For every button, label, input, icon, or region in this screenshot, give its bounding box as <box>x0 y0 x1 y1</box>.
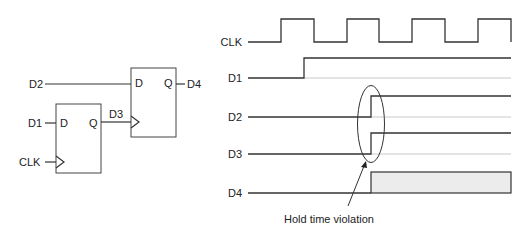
schematic: D Q D Q D2 D1 CLK D3 D4 <box>19 68 201 173</box>
net-label-d3: D3 <box>109 108 123 120</box>
diagram-canvas: D Q D Q D2 D1 CLK D3 D4 CLK D1 D2 D3 D4 <box>0 0 531 237</box>
waveform-d4-undefined-region <box>371 172 511 193</box>
signal-label-d4: D4 <box>228 187 242 199</box>
waveform-d1 <box>248 58 511 78</box>
ff1-d-pin: D <box>60 117 68 129</box>
ff2-q-pin: Q <box>164 77 173 89</box>
signal-label-d3: D3 <box>228 148 242 160</box>
annotation-arrow <box>348 166 364 206</box>
arrowhead-icon <box>361 161 367 168</box>
input-label-clk: CLK <box>19 156 41 168</box>
waveform-d3 <box>248 133 511 154</box>
annotation-hold-time-violation: Hold time violation <box>284 213 374 225</box>
ff2-d-pin: D <box>135 77 143 89</box>
waveform-clk <box>248 19 511 42</box>
ff1-q-pin: Q <box>89 117 98 129</box>
waveform-d2 <box>248 96 511 117</box>
signal-label-d1: D1 <box>228 72 242 84</box>
timing-diagram: CLK D1 D2 D3 D4 Hold time violation <box>221 19 511 225</box>
input-label-d1: D1 <box>28 117 42 129</box>
input-label-d2: D2 <box>29 78 43 90</box>
output-label-d4: D4 <box>187 78 201 90</box>
signal-label-d2: D2 <box>228 111 242 123</box>
signal-label-clk: CLK <box>221 36 243 48</box>
